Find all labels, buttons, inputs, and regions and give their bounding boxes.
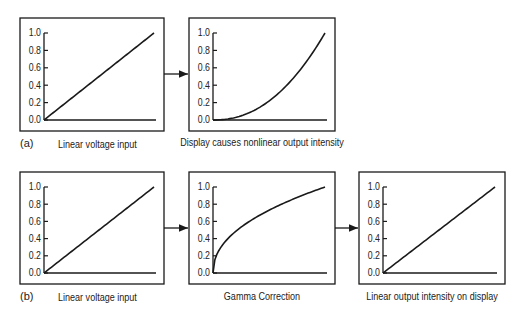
y-tick-label: 0.8 — [198, 198, 210, 210]
data-curve — [213, 187, 325, 273]
y-tick-label: 0.4 — [29, 79, 41, 91]
panel-frame — [189, 172, 335, 284]
y-tick-label: 0.4 — [29, 233, 41, 245]
y-tick-label: 0.2 — [198, 97, 210, 109]
y-tick-label: 1.0 — [29, 27, 41, 39]
y-tick-label: 0.2 — [198, 250, 210, 262]
panel-frame — [20, 18, 164, 131]
y-tick-label: 0.8 — [29, 44, 41, 56]
y-tick-label: 0.0 — [198, 114, 210, 126]
caption-a2: Display causes nonlinear output intensit… — [176, 136, 348, 148]
y-tick-label: 0.0 — [29, 267, 41, 279]
y-tick-label: 0.0 — [368, 267, 380, 279]
y-tick-label: 0.6 — [29, 62, 41, 74]
row-tag-a: (a) — [20, 137, 33, 149]
data-curve — [383, 187, 495, 273]
y-tick-label: 0.0 — [29, 114, 41, 126]
data-curve — [44, 33, 154, 120]
y-tick-label: 0.4 — [198, 233, 210, 245]
y-tick-label: 0.8 — [368, 198, 380, 210]
row-tag-b: (b) — [20, 290, 33, 302]
y-tick-label: 1.0 — [368, 181, 380, 193]
gamma-diagram: 0.00.20.40.60.81.00.00.20.40.60.81.00.00… — [0, 0, 525, 317]
panel-frame — [20, 172, 164, 284]
caption-b1: Linear voltage input — [58, 291, 137, 303]
y-tick-label: 1.0 — [198, 181, 210, 193]
panel-frame — [189, 18, 335, 131]
caption-b2: Gamma Correction — [176, 290, 348, 302]
panel-frame — [359, 172, 505, 284]
y-tick-label: 0.6 — [198, 62, 210, 74]
y-tick-label: 0.8 — [29, 198, 41, 210]
y-tick-label: 0.4 — [198, 79, 210, 91]
y-tick-label: 0.4 — [368, 233, 380, 245]
data-curve — [213, 33, 325, 120]
y-tick-label: 0.0 — [198, 267, 210, 279]
caption-a1: Linear voltage input — [58, 138, 137, 150]
data-curve — [44, 187, 154, 273]
y-tick-label: 1.0 — [29, 181, 41, 193]
y-tick-label: 0.6 — [368, 215, 380, 227]
caption-b3: Linear output intensity on display — [346, 290, 518, 302]
y-tick-label: 0.6 — [198, 215, 210, 227]
y-tick-label: 0.2 — [29, 97, 41, 109]
y-tick-label: 0.6 — [29, 215, 41, 227]
y-tick-label: 0.8 — [198, 44, 210, 56]
y-tick-label: 0.2 — [29, 250, 41, 262]
y-tick-label: 1.0 — [198, 27, 210, 39]
y-tick-label: 0.2 — [368, 250, 380, 262]
